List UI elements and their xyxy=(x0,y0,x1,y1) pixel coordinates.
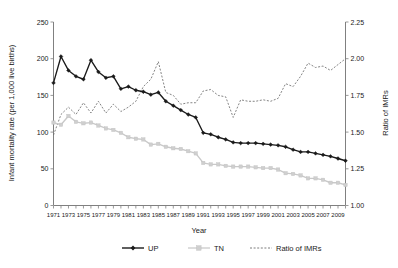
y-axis-right-tick-label: 1.75 xyxy=(351,92,365,99)
data-point-tn xyxy=(306,177,309,180)
x-axis-tick-label: 1985 xyxy=(152,212,166,218)
x-axis-tick-label: 1995 xyxy=(227,212,241,218)
x-axis-tick-label: 1977 xyxy=(92,212,106,218)
data-point-tn xyxy=(209,163,212,166)
data-point-tn xyxy=(202,161,205,164)
y-axis-left-tick-label: 50 xyxy=(41,165,49,172)
y-axis-left-tick-label: 100 xyxy=(37,129,49,136)
x-axis-tick-label: 1983 xyxy=(137,212,151,218)
x-axis-tick-label: 1999 xyxy=(256,212,270,218)
data-point-tn xyxy=(97,124,100,127)
x-axis-tick-label: 2009 xyxy=(331,212,345,218)
y-axis-right-tick-label: 2.00 xyxy=(351,55,365,62)
data-point-tn xyxy=(149,143,152,146)
data-point-tn xyxy=(104,127,107,130)
legend-label-tn: TN xyxy=(214,244,224,253)
x-axis-tick-label: 2007 xyxy=(316,212,330,218)
data-point-tn xyxy=(164,145,167,148)
y-axis-left-tick-label: 250 xyxy=(37,19,49,26)
x-axis-tick-label: 1971 xyxy=(47,212,61,218)
data-point-tn xyxy=(224,164,227,167)
data-point-tn xyxy=(179,147,182,150)
legend-label-ratio: Ratio of IMRs xyxy=(276,244,322,253)
data-point-tn xyxy=(314,177,317,180)
data-point-tn xyxy=(284,172,287,175)
data-point-tn xyxy=(321,178,324,181)
data-point-tn xyxy=(194,152,197,155)
x-axis-tick-label: 2001 xyxy=(271,212,285,218)
x-axis-tick-label: 1981 xyxy=(122,212,136,218)
x-axis-title: Year xyxy=(191,226,207,235)
data-point-tn xyxy=(112,128,115,131)
data-point-tn xyxy=(276,168,279,171)
data-point-tn xyxy=(119,131,122,134)
data-point-tn xyxy=(299,174,302,177)
y-axis-left-tick-label: 0 xyxy=(45,202,49,209)
legend-label-up: UP xyxy=(148,244,158,253)
data-point-tn xyxy=(89,121,92,124)
x-axis-tick-label: 1991 xyxy=(197,212,211,218)
data-point-tn xyxy=(187,149,190,152)
data-point-tn xyxy=(217,163,220,166)
data-point-tn xyxy=(67,114,70,117)
data-point-tn xyxy=(134,137,137,140)
y-axis-right-tick-label: 1.00 xyxy=(351,202,365,209)
x-axis-tick-label: 1975 xyxy=(77,212,91,218)
x-axis-tick-label: 1993 xyxy=(212,212,226,218)
y-axis-left-title: Infant mortality rate (per 1,000 live bi… xyxy=(7,44,16,181)
data-point-tn xyxy=(52,121,55,124)
data-point-tn xyxy=(269,166,272,169)
data-point-tn xyxy=(329,181,332,184)
data-point-tn xyxy=(74,120,77,123)
chart-legend: UPTNRatio of IMRs xyxy=(122,244,322,253)
y-axis-left-tick-label: 200 xyxy=(37,55,49,62)
x-axis-tick-label: 2003 xyxy=(286,212,300,218)
data-point-tn xyxy=(246,165,249,168)
data-point-tn xyxy=(172,147,175,150)
x-axis-tick-label: 1989 xyxy=(182,212,196,218)
x-axis-tick-label: 1973 xyxy=(62,212,76,218)
data-point-tn xyxy=(344,183,347,186)
chart-figure: 050100150200250 1.001.251.501.752.002.25… xyxy=(0,0,398,268)
data-point-tn xyxy=(82,122,85,125)
y-axis-left-tick-label: 150 xyxy=(37,92,49,99)
y-axis-right-tick-label: 1.50 xyxy=(351,129,365,136)
data-point-tn xyxy=(336,181,339,184)
data-point-tn xyxy=(239,165,242,168)
data-point-tn xyxy=(157,142,160,145)
data-point-tn xyxy=(231,165,234,168)
y-axis-right-tick-label: 1.25 xyxy=(351,165,365,172)
y-axis-right-tick-label: 2.25 xyxy=(351,19,365,26)
data-point-tn xyxy=(142,138,145,141)
legend-marker-tn xyxy=(197,246,202,251)
data-point-tn xyxy=(254,166,257,169)
infant-mortality-line-chart: 050100150200250 1.001.251.501.752.002.25… xyxy=(0,0,398,268)
data-point-tn xyxy=(59,123,62,126)
x-axis-tick-label: 1997 xyxy=(241,212,255,218)
data-point-tn xyxy=(261,166,264,169)
x-axis-tick-label: 1979 xyxy=(107,212,121,218)
x-axis-tick-label: 2005 xyxy=(301,212,315,218)
data-point-tn xyxy=(127,136,130,139)
data-point-tn xyxy=(291,172,294,175)
y-axis-right-title: Ratio of IMRs xyxy=(381,90,390,136)
x-axis-tick-label: 1987 xyxy=(167,212,181,218)
